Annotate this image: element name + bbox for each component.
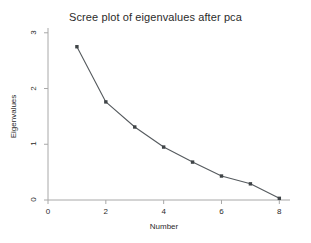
data-point-5 bbox=[191, 160, 194, 163]
plot-area bbox=[0, 0, 311, 243]
eigenvalue-line bbox=[77, 47, 279, 199]
data-point-2 bbox=[104, 100, 107, 103]
data-point-4 bbox=[162, 145, 165, 148]
tick-marks bbox=[44, 33, 279, 204]
data-point-3 bbox=[133, 125, 136, 128]
data-point-6 bbox=[220, 174, 223, 177]
data-point-8 bbox=[278, 197, 281, 200]
axis-lines bbox=[48, 28, 290, 200]
data-point-1 bbox=[75, 45, 78, 48]
data-point-markers bbox=[75, 45, 281, 200]
scree-plot-figure: Scree plot of eigenvalues after pca Eige… bbox=[0, 0, 311, 243]
data-point-7 bbox=[249, 182, 252, 185]
